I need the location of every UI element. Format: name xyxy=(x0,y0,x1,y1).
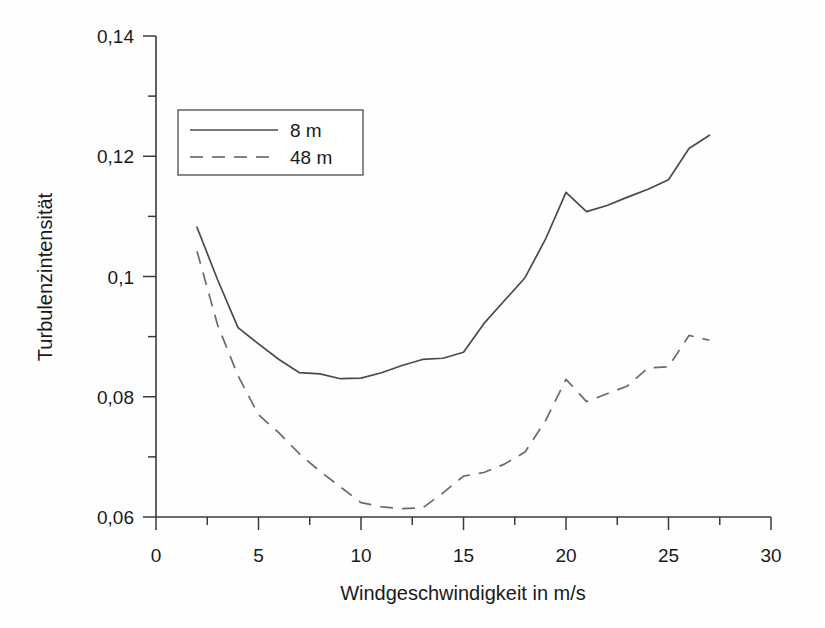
chart-figure: 0,060,080,10,120,14051015202530 8 m48 m … xyxy=(0,0,825,628)
y-tick-label: 0,14 xyxy=(97,26,134,47)
x-tick-label: 25 xyxy=(658,545,679,566)
x-tick-label: 10 xyxy=(350,545,371,566)
x-tick-label: 15 xyxy=(453,545,474,566)
x-tick-label: 20 xyxy=(555,545,576,566)
y-tick-label: 0,06 xyxy=(97,507,134,528)
y-axis-title: Turbulenzintensität xyxy=(34,192,56,361)
y-tick-label: 0,08 xyxy=(97,387,134,408)
legend-label-48-m: 48 m xyxy=(290,147,332,168)
x-tick-label: 0 xyxy=(151,545,162,566)
x-tick-label: 30 xyxy=(760,545,781,566)
chart-background xyxy=(0,0,825,628)
legend-box xyxy=(178,110,363,175)
legend-label-8-m: 8 m xyxy=(290,120,322,141)
y-tick-label: 0,1 xyxy=(108,267,134,288)
chart-legend: 8 m48 m xyxy=(178,110,363,175)
y-tick-label: 0,12 xyxy=(97,146,134,167)
x-axis-title: Windgeschwindigkeit in m/s xyxy=(340,582,586,604)
x-tick-label: 5 xyxy=(253,545,264,566)
turbulence-intensity-line-chart: 0,060,080,10,120,14051015202530 8 m48 m … xyxy=(0,0,825,628)
